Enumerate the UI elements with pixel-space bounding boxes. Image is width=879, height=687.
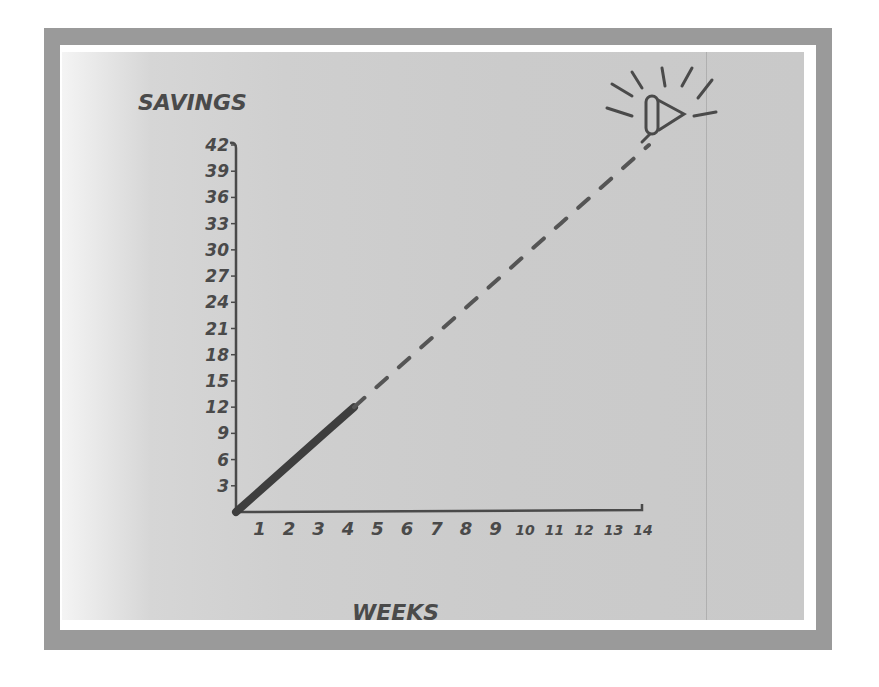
y-tick-label: 39 (205, 161, 229, 181)
y-tick-label: 9 (217, 423, 229, 443)
y-tick-label: 15 (205, 371, 229, 391)
x-tick-label: 8 (460, 518, 473, 539)
x-tick-label: 12 (574, 522, 593, 538)
x-tick-labels: 1234567891011121314 (253, 518, 653, 539)
y-tick-label: 27 (205, 266, 229, 286)
x-tick-label: 5 (371, 518, 384, 539)
frame-mat: SAVINGS WEEKS 3691215182124273033363942 … (60, 45, 816, 630)
y-tick-label: 12 (205, 397, 229, 417)
x-tick-label: 6 (401, 518, 414, 539)
x-tick-label: 9 (489, 518, 502, 539)
x-tick-label: 7 (430, 518, 443, 539)
y-tick-label: 18 (205, 345, 229, 365)
x-tick-label: 10 (515, 522, 535, 538)
x-tick-label: 14 (633, 522, 652, 538)
x-tick-label: 11 (545, 522, 564, 538)
data-series (236, 145, 649, 512)
y-tick-label: 30 (205, 240, 229, 260)
picture-frame: SAVINGS WEEKS 3691215182124273033363942 … (44, 28, 832, 650)
actual-savings-line (236, 407, 354, 512)
chart-paper: SAVINGS WEEKS 3691215182124273033363942 … (62, 52, 804, 620)
x-tick-label: 1 (253, 518, 266, 539)
y-tick-label: 36 (205, 187, 229, 207)
y-tick-labels: 3691215182124273033363942 (204, 135, 236, 496)
y-tick-label: 3 (217, 476, 229, 496)
y-tick-label: 21 (205, 319, 229, 339)
savings-chart: SAVINGS WEEKS 3691215182124273033363942 … (62, 52, 804, 620)
x-tick-label: 4 (341, 518, 355, 539)
x-axis-title: WEEKS (352, 600, 439, 620)
x-axis (236, 504, 642, 512)
y-tick-label: 6 (217, 450, 229, 470)
y-axis-title: SAVINGS (138, 90, 247, 115)
trumpet-icon (607, 68, 716, 142)
projected-savings-line (354, 145, 649, 407)
y-tick-label: 24 (205, 292, 229, 312)
x-tick-label: 3 (312, 518, 325, 539)
x-tick-label: 13 (604, 522, 623, 538)
y-tick-label: 33 (205, 214, 229, 234)
x-tick-label: 2 (283, 518, 296, 539)
y-axis (230, 143, 236, 512)
y-tick-label: 42 (204, 135, 229, 155)
